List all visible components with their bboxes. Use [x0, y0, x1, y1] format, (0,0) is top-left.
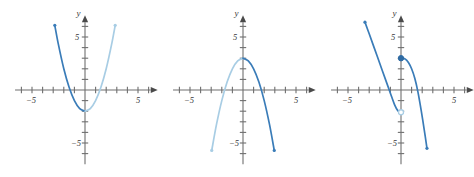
curve-endpoint — [363, 21, 366, 24]
x-axis-arrow-icon — [309, 87, 316, 93]
y-axis-arrow-icon — [82, 15, 88, 22]
three-graph-figure: −55−55xy−55−55xy−55−55xy — [0, 0, 474, 177]
x-tick-label: 5 — [452, 95, 456, 105]
curve-left-branch — [365, 22, 401, 112]
graph-panel-1: −55−55xy — [0, 0, 158, 177]
curve-endpoint — [425, 147, 428, 150]
open-point-marker — [399, 110, 404, 115]
x-tick-label: −5 — [184, 95, 194, 105]
y-axis-arrow-icon — [398, 15, 404, 22]
y-tick-label: 5 — [391, 32, 395, 42]
x-axis-arrow-icon — [467, 87, 474, 93]
x-tick-label: 5 — [136, 95, 140, 105]
y-axis-arrow-icon — [240, 15, 246, 22]
curve-endpoint — [210, 149, 213, 152]
curve-right-branch — [85, 25, 115, 111]
x-axis-arrow-icon — [151, 87, 158, 93]
y-axis-label: y — [76, 8, 81, 18]
y-axis-label: y — [392, 8, 397, 18]
graph-panel-3: −55−55xy — [316, 0, 474, 177]
y-tick-label: 5 — [75, 32, 79, 42]
curve-left-branch — [55, 25, 85, 111]
curve-endpoint — [273, 149, 276, 152]
y-tick-label: −5 — [229, 138, 239, 148]
x-tick-label: 5 — [294, 95, 298, 105]
closed-point-marker — [398, 56, 403, 61]
x-tick-label: −5 — [342, 95, 352, 105]
curve-right-branch — [401, 58, 427, 148]
y-tick-label: −5 — [387, 138, 397, 148]
y-tick-label: −5 — [71, 138, 81, 148]
curve-endpoint — [114, 24, 117, 27]
y-tick-label: 5 — [233, 32, 237, 42]
curve-endpoint — [53, 24, 56, 27]
graph-panel-2: −55−55xy — [158, 0, 316, 177]
curve-right-branch — [243, 58, 274, 150]
y-axis-label: y — [234, 8, 239, 18]
x-tick-label: −5 — [26, 95, 36, 105]
curve-left-branch — [212, 58, 243, 150]
